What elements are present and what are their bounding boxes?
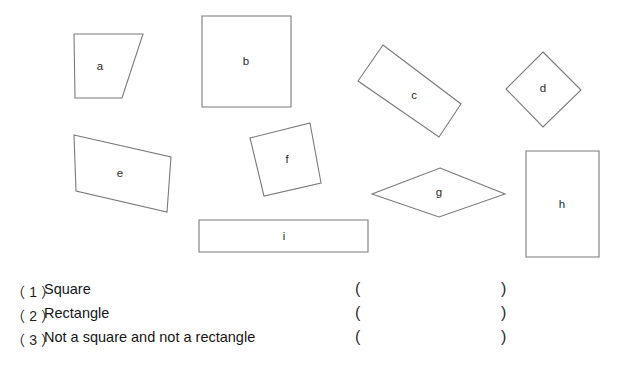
question-row-3: （ 3 ） Not a square and not a rectangle (… <box>0 329 621 353</box>
question-label-3: Not a square and not a rectangle <box>44 329 255 345</box>
shape-label-d: d <box>540 82 546 94</box>
answer-slot-2[interactable] <box>366 307 498 326</box>
question-label-2: Rectangle <box>44 305 109 321</box>
shape-c: c <box>358 45 461 137</box>
shape-h: h <box>526 151 599 257</box>
shape-i: i <box>199 220 368 252</box>
question-row-1: （ 1 ） Square ( ) <box>0 281 621 305</box>
shape-label-g: g <box>436 186 442 198</box>
shape-outline-a <box>74 34 143 98</box>
answer-slot-1[interactable] <box>366 283 498 302</box>
question-row-2: （ 2 ） Rectangle ( ) <box>0 305 621 329</box>
question-label-1: Square <box>44 281 91 297</box>
shape-label-h: h <box>559 198 565 210</box>
answer-paren-close-3: ) <box>501 328 506 346</box>
answer-slot-3[interactable] <box>366 331 498 350</box>
answer-paren-open-3: ( <box>355 328 360 346</box>
answer-paren-close-1: ) <box>501 280 506 298</box>
shape-label-a: a <box>97 60 104 72</box>
shape-a: a <box>74 34 143 98</box>
worksheet-page: abcdefghi （ 1 ） Square ( ) （ 2 ） Rectang… <box>0 0 621 392</box>
shape-f: f <box>250 123 321 196</box>
shape-outline-c <box>358 45 461 137</box>
questions-list: （ 1 ） Square ( ) （ 2 ） Rectangle ( ) （ 3… <box>0 281 621 353</box>
shape-g: g <box>372 168 505 217</box>
shape-label-i: i <box>283 230 286 242</box>
shape-label-e: e <box>117 167 123 179</box>
answer-paren-open-1: ( <box>355 280 360 298</box>
answer-paren-close-2: ) <box>501 304 506 322</box>
shape-e: e <box>74 135 171 212</box>
shape-label-c: c <box>411 89 417 101</box>
shape-d: d <box>506 52 581 127</box>
answer-paren-open-2: ( <box>355 304 360 322</box>
shape-label-b: b <box>243 55 249 67</box>
shape-b: b <box>202 16 291 107</box>
